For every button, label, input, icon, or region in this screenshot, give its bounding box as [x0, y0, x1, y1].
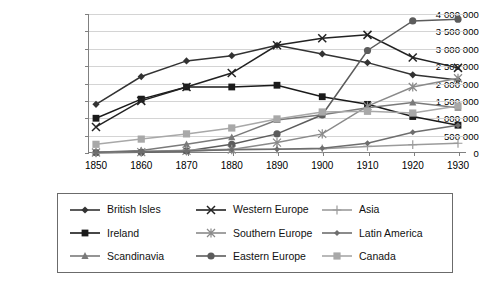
- chart-plot-area: 0500 0001 000 0001 500 0002 000 0002 500…: [0, 0, 479, 180]
- data-point-light-square: [319, 108, 326, 115]
- data-point-small-diamond: [334, 230, 340, 236]
- data-point-diamond: [92, 101, 99, 108]
- x-tick-label: 1850: [85, 160, 107, 171]
- data-point-light-square: [92, 141, 99, 148]
- legend-item-eastern-europe[interactable]: Eastern Europe: [194, 245, 320, 268]
- x-tick-label: 1890: [266, 160, 288, 171]
- legend-label: Asia: [359, 204, 379, 215]
- x-tick-label: 1860: [130, 160, 152, 171]
- data-point-triangle: [409, 99, 416, 106]
- data-point-circle: [364, 47, 371, 54]
- legend-label: Southern Europe: [233, 228, 312, 239]
- legend-label: Canada: [359, 251, 396, 262]
- data-point-small-diamond: [274, 146, 280, 152]
- legend-item-canada[interactable]: Canada: [320, 245, 446, 268]
- x-tick-label: 1900: [311, 160, 333, 171]
- legend-item-scandinavia[interactable]: Scandinavia: [68, 245, 194, 268]
- data-point-diamond: [409, 71, 416, 78]
- data-point-plus: [333, 205, 342, 214]
- x-tick-label: 1920: [402, 160, 424, 171]
- data-point-x: [228, 69, 236, 77]
- chart-legend: British IslesWestern EuropeAsiaIrelandSo…: [57, 193, 453, 273]
- legend-label: Latin America: [359, 228, 423, 239]
- x-tick-label: 1910: [356, 160, 378, 171]
- data-point-small-diamond: [365, 140, 371, 146]
- legend-label: British Isles: [107, 204, 161, 215]
- data-point-circle: [207, 253, 214, 260]
- legend-item-southern-europe[interactable]: Southern Europe: [194, 221, 320, 244]
- data-point-x: [92, 123, 100, 131]
- legend-grid: British IslesWestern EuropeAsiaIrelandSo…: [58, 194, 452, 272]
- legend-marker-square-icon: [68, 226, 102, 240]
- data-point-diamond: [228, 52, 235, 59]
- legend-label: Ireland: [107, 228, 139, 239]
- data-point-small-diamond: [319, 145, 325, 151]
- data-point-light-square: [454, 102, 461, 109]
- legend-marker-circle-icon: [194, 249, 228, 263]
- data-series-layer: [88, 14, 466, 153]
- data-point-light-square: [228, 124, 235, 131]
- legend-item-british-isles[interactable]: British Isles: [68, 198, 194, 221]
- data-point-square: [319, 93, 326, 100]
- data-point-diamond: [364, 59, 371, 66]
- legend-item-asia[interactable]: Asia: [320, 198, 446, 221]
- x-tick-label: 1930: [447, 160, 469, 171]
- data-point-light-square: [409, 109, 416, 116]
- data-point-light-square: [333, 253, 340, 260]
- legend-item-western-europe[interactable]: Western Europe: [194, 198, 320, 221]
- chart-root: 0500 0001 000 0001 500 0002 000 0002 500…: [0, 0, 479, 283]
- legend-marker-plus-icon: [320, 203, 354, 217]
- legend-label: Western Europe: [233, 204, 309, 215]
- data-point-diamond: [81, 206, 88, 213]
- data-point-square: [93, 115, 100, 122]
- data-point-circle: [454, 16, 461, 23]
- legend-label: Scandinavia: [107, 251, 164, 262]
- data-point-light-square: [183, 130, 190, 137]
- data-point-diamond: [183, 57, 190, 64]
- legend-label: Eastern Europe: [233, 251, 306, 262]
- data-point-circle: [409, 17, 416, 24]
- y-tick-mark: [85, 153, 89, 154]
- data-point-diamond: [138, 73, 145, 80]
- legend-marker-x-icon: [194, 203, 228, 217]
- legend-marker-asterisk-icon: [194, 226, 228, 240]
- data-point-light-square: [273, 115, 280, 122]
- legend-item-latin-america[interactable]: Latin America: [320, 221, 446, 244]
- x-tick-label: 1870: [175, 160, 197, 171]
- data-point-square: [274, 82, 281, 89]
- legend-marker-triangle-icon: [68, 249, 102, 263]
- series-line: [96, 45, 458, 104]
- data-point-light-square: [364, 108, 371, 115]
- data-point-plus: [408, 140, 417, 149]
- legend-marker-small-diamond-icon: [320, 226, 354, 240]
- data-point-small-diamond: [410, 129, 416, 135]
- data-point-square: [228, 84, 235, 91]
- data-point-diamond: [319, 50, 326, 57]
- data-point-circle: [273, 130, 280, 137]
- legend-marker-light-square-icon: [320, 249, 354, 263]
- data-point-square: [82, 230, 89, 237]
- x-tick-label: 1880: [221, 160, 243, 171]
- legend-item-ireland[interactable]: Ireland: [68, 221, 194, 244]
- data-point-plus: [454, 139, 463, 148]
- data-point-light-square: [138, 136, 145, 143]
- legend-marker-diamond-icon: [68, 203, 102, 217]
